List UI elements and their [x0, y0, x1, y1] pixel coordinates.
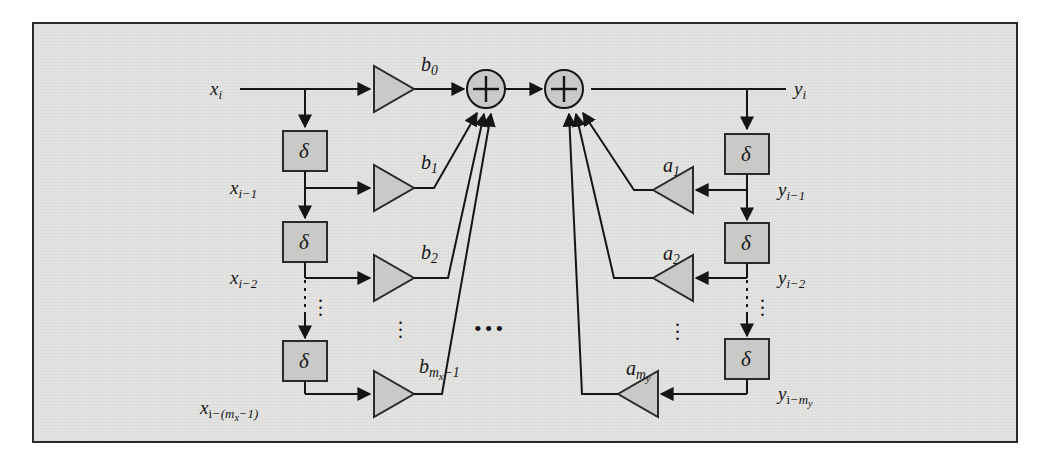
- label-x-i-2-sub: i−2: [238, 276, 257, 291]
- amp-triangle-b-last: [374, 371, 414, 417]
- label-x-i-2: xi−2: [230, 268, 257, 291]
- delay-symbol-x-last: δ: [299, 351, 309, 372]
- label-y-i-my-sub: i−my: [786, 392, 812, 407]
- summer-1: [467, 70, 505, 108]
- label-y-i-1-sub: i−1: [786, 188, 805, 203]
- label-x-i-1: xi−1: [230, 178, 257, 201]
- delay-symbol-x2: δ: [299, 232, 309, 253]
- label-y-i-1: yi−1: [778, 180, 805, 203]
- wire-a2-to-summer2: [576, 114, 653, 278]
- label-input-xi: xi: [210, 79, 222, 102]
- ellipsis-center: •••: [474, 318, 506, 340]
- label-y-i-2-sub: i−2: [786, 276, 805, 291]
- delay-symbol-y-last: δ: [741, 349, 751, 370]
- ellipsis-a-coefs: ...: [675, 316, 680, 337]
- amp-triangle-b0: [374, 66, 414, 112]
- ellipsis-x-chain: ...: [318, 292, 323, 313]
- label-y-i-my: yi−my: [778, 384, 813, 408]
- amp-triangle-b1: [374, 165, 414, 211]
- label-coef-a1: a1: [663, 155, 680, 178]
- label-input-xi-sub: i: [218, 87, 222, 102]
- label-coef-b1-base: b: [421, 151, 431, 173]
- label-coef-b-last: bmx−1: [419, 356, 460, 382]
- label-coef-b0-base: b: [421, 53, 431, 75]
- label-coef-b2: b2: [421, 242, 438, 265]
- label-coef-b2-base: b: [421, 241, 431, 263]
- label-coef-b0-sub: 0: [431, 63, 438, 78]
- summer-2: [545, 70, 583, 108]
- label-coef-a-last: amy: [626, 358, 651, 384]
- signal-flow-graph: [34, 24, 1018, 443]
- figure-root: δ δ δ δ δ δ xi xi−1 xi−2 xi−(mx−1) b0 b1: [0, 0, 1041, 462]
- label-coef-a2-sub: 2: [673, 252, 680, 267]
- ellipsis-b-coefs: ...: [398, 314, 403, 335]
- label-coef-a-last-sub: my: [636, 367, 651, 382]
- wire-a1-to-summer2: [583, 113, 653, 190]
- label-coef-b-last-sub: mx−1: [429, 365, 460, 380]
- label-x-i-mx: xi−(mx−1): [200, 398, 258, 422]
- label-coef-a1-sub: 1: [673, 164, 680, 179]
- label-coef-a-last-base: a: [626, 357, 636, 379]
- label-coef-b2-sub: 2: [431, 251, 438, 266]
- label-output-yi-sub: i: [802, 87, 806, 102]
- label-coef-b-last-base: b: [419, 355, 429, 377]
- label-coef-a2: a2: [663, 243, 680, 266]
- label-coef-b0: b0: [421, 54, 438, 77]
- label-x-i-1-sub: i−1: [238, 186, 257, 201]
- ellipsis-y-chain: ...: [760, 292, 765, 313]
- delay-symbol-y1: δ: [741, 144, 751, 165]
- figure-frame: δ δ δ δ δ δ xi xi−1 xi−2 xi−(mx−1) b0 b1: [32, 22, 1018, 443]
- label-coef-b1-sub: 1: [431, 161, 438, 176]
- label-y-i-2: yi−2: [778, 268, 805, 291]
- delay-symbol-x1: δ: [299, 141, 309, 162]
- delay-symbol-y2: δ: [741, 233, 751, 254]
- label-output-yi: yi: [794, 79, 806, 102]
- label-coef-a2-base: a: [663, 242, 673, 264]
- amp-triangle-b2: [374, 255, 414, 301]
- label-coef-a1-base: a: [663, 154, 673, 176]
- label-coef-b1: b1: [421, 152, 438, 175]
- label-x-i-mx-sub: i−(mx−1): [208, 406, 258, 421]
